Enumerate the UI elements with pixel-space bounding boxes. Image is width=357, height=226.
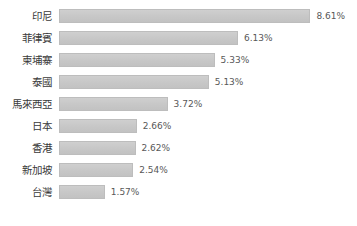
category-label: 柬埔寨 bbox=[0, 53, 52, 67]
category-label: 馬來西亞 bbox=[0, 97, 52, 111]
bar-value-label: 2.54% bbox=[139, 163, 168, 177]
bar-value-label: 1.57% bbox=[111, 185, 140, 199]
bar-value-label: 2.62% bbox=[142, 141, 171, 155]
bar-fill[interactable] bbox=[59, 9, 310, 23]
bar-value-label: 3.72% bbox=[174, 97, 203, 111]
bar-track: 3.72% bbox=[59, 97, 357, 111]
bar-fill[interactable] bbox=[59, 141, 136, 155]
bar-track: 5.33% bbox=[59, 53, 357, 67]
bar-fill[interactable] bbox=[59, 75, 209, 89]
bar-fill[interactable] bbox=[59, 185, 105, 199]
bar-fill[interactable] bbox=[59, 163, 133, 177]
bar-row: 新加坡 2.54% bbox=[0, 163, 357, 177]
bar-row: 香港 2.62% bbox=[0, 141, 357, 155]
category-label: 新加坡 bbox=[0, 163, 52, 177]
bar-value-label: 5.13% bbox=[215, 75, 244, 89]
bar-fill[interactable] bbox=[59, 119, 137, 133]
bar-value-label: 6.13% bbox=[244, 31, 273, 45]
chart-plot-area: 印尼 8.61% 菲律賓 6.13% 柬埔寨 5.33% 泰國 bbox=[0, 9, 357, 207]
category-label: 台灣 bbox=[0, 185, 52, 199]
bar-row: 柬埔寨 5.33% bbox=[0, 53, 357, 67]
category-label: 日本 bbox=[0, 119, 52, 133]
bar-row: 印尼 8.61% bbox=[0, 9, 357, 23]
bar-row: 泰國 5.13% bbox=[0, 75, 357, 89]
bar-chart: 印尼 8.61% 菲律賓 6.13% 柬埔寨 5.33% 泰國 bbox=[0, 0, 357, 226]
bar-track: 2.66% bbox=[59, 119, 357, 133]
bar-track: 1.57% bbox=[59, 185, 357, 199]
bar-value-label: 8.61% bbox=[316, 9, 345, 23]
category-label: 印尼 bbox=[0, 9, 52, 23]
bar-track: 2.62% bbox=[59, 141, 357, 155]
bar-row: 菲律賓 6.13% bbox=[0, 31, 357, 45]
bar-row: 馬來西亞 3.72% bbox=[0, 97, 357, 111]
bar-value-label: 2.66% bbox=[143, 119, 172, 133]
bar-fill[interactable] bbox=[59, 31, 238, 45]
bar-fill[interactable] bbox=[59, 53, 215, 67]
category-label: 香港 bbox=[0, 141, 52, 155]
bar-row: 日本 2.66% bbox=[0, 119, 357, 133]
bar-value-label: 5.33% bbox=[221, 53, 250, 67]
category-label: 泰國 bbox=[0, 75, 52, 89]
category-label: 菲律賓 bbox=[0, 31, 52, 45]
bar-track: 2.54% bbox=[59, 163, 357, 177]
bar-row: 台灣 1.57% bbox=[0, 185, 357, 199]
bar-track: 5.13% bbox=[59, 75, 357, 89]
bar-fill[interactable] bbox=[59, 97, 168, 111]
bar-track: 6.13% bbox=[59, 31, 357, 45]
bar-track: 8.61% bbox=[59, 9, 357, 23]
